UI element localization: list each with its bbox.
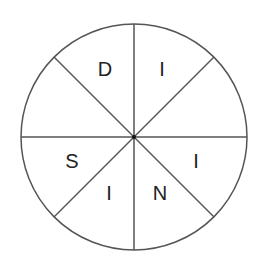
letter-i-bottom: I xyxy=(106,182,112,204)
letter-d: D xyxy=(98,58,112,80)
center-dot xyxy=(132,135,136,139)
letter-s: S xyxy=(65,150,78,172)
letter-i-right: I xyxy=(193,150,199,172)
divided-circle-diagram: D I S I I N xyxy=(0,0,267,261)
letter-i-top: I xyxy=(159,58,165,80)
letter-n: N xyxy=(153,182,167,204)
